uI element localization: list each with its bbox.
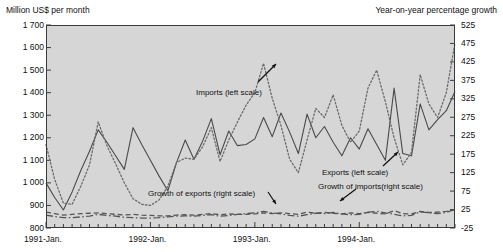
y-tick-left: 1 500 — [23, 65, 44, 75]
chart-root: Million US$ per month Year-on-year perce… — [0, 0, 503, 252]
annotation-label-3: Growth of imports(right scale) — [318, 182, 423, 191]
y-tick-left: 1 400 — [23, 87, 44, 97]
x-tick-label: 1993-Jan. — [233, 234, 271, 244]
annotation-arrow-2 — [268, 192, 276, 204]
y-tick-right: 475 — [461, 38, 475, 48]
annotation-label-1: Exports (left scale) — [322, 168, 388, 177]
y-tick-left: 1 200 — [23, 132, 44, 142]
y-tick-left: 800 — [30, 223, 44, 233]
y-tick-right: 125 — [461, 167, 475, 177]
y-tick-right: -25 — [461, 223, 473, 233]
x-tick-label: 1991-Jan. — [24, 234, 62, 244]
y-tick-left: 1 000 — [23, 177, 44, 187]
y-tick-left: 1 600 — [23, 42, 44, 52]
y-tick-right: 425 — [461, 56, 475, 66]
y-tick-left: 1 700 — [23, 20, 44, 30]
y-tick-left: 900 — [30, 200, 44, 210]
y-tick-right: 175 — [461, 149, 475, 159]
x-tick-label: 1992-Jan. — [128, 234, 166, 244]
y-tick-right: 225 — [461, 130, 475, 140]
x-tick-label: 1994-Jan. — [337, 234, 375, 244]
y-tick-right: 525 — [461, 20, 475, 30]
y-tick-right: 325 — [461, 93, 475, 103]
y-tick-left: 1 100 — [23, 155, 44, 165]
chart-canvas — [0, 0, 503, 252]
y-tick-right: 75 — [461, 186, 470, 196]
annotation-label-0: Imports (left scale) — [196, 88, 262, 97]
y-tick-right: 25 — [461, 204, 470, 214]
y-tick-right: 375 — [461, 75, 475, 85]
annotation-label-2: Growth of exports (right scale) — [148, 189, 255, 198]
y-tick-left: 1 300 — [23, 110, 44, 120]
y-tick-right: 275 — [461, 112, 475, 122]
series-line-3 — [46, 209, 455, 218]
